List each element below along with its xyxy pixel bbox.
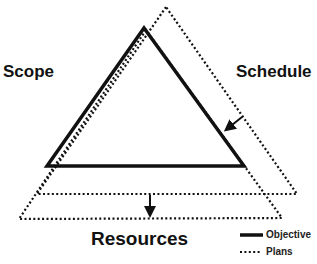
schedule-label: Schedule (236, 62, 312, 82)
legend-objective-label: Objective (266, 229, 311, 240)
schedule-arrow-icon (227, 117, 242, 129)
legend-plans-label: Plans (266, 246, 293, 257)
triangle-diagram (0, 0, 317, 264)
scope-label: Scope (3, 62, 54, 82)
plans-triangle-resources (19, 30, 282, 219)
resources-label: Resources (91, 228, 188, 250)
objective-triangle (47, 28, 244, 166)
